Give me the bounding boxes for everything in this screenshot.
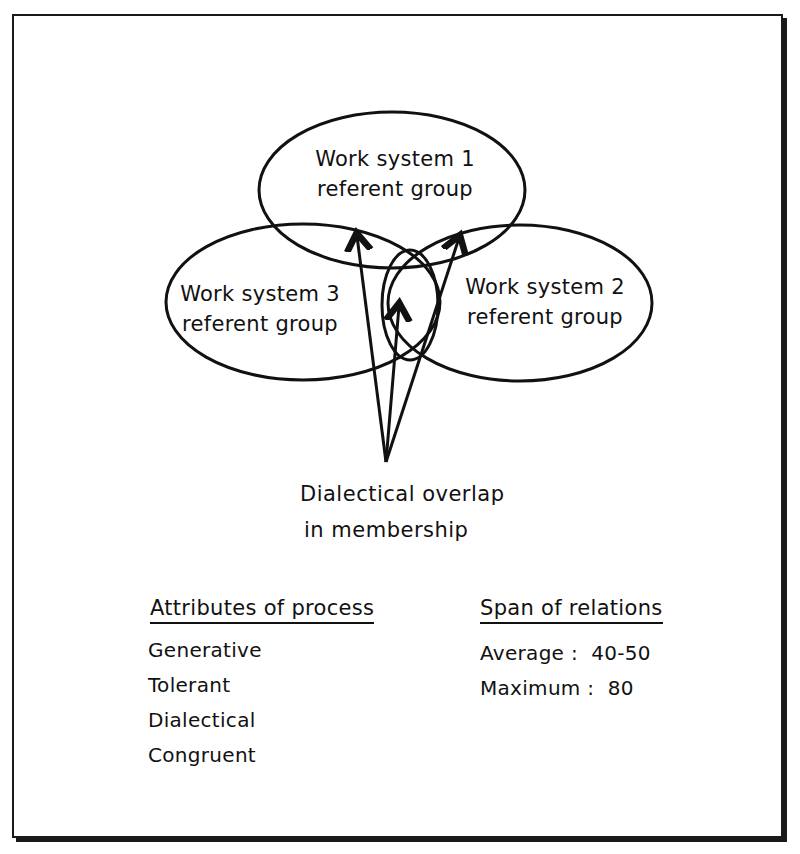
overlap-caption-line2: in membership (300, 512, 505, 548)
node-ws1-title: Work system 1 (290, 144, 500, 174)
attributes-title: Attributes of process (150, 596, 374, 624)
node-ws1-subtitle: referent group (290, 174, 500, 204)
arrow-to-ws1-ws2 (386, 238, 459, 462)
attribute-item: Tolerant (148, 668, 262, 703)
span-title: Span of relations (480, 596, 663, 624)
attributes-list: Generative Tolerant Dialectical Congruen… (148, 633, 262, 773)
node-ws3: Work system 3 referent group (170, 279, 350, 339)
attribute-item: Generative (148, 633, 262, 668)
node-ws2-title: Work system 2 (450, 272, 640, 302)
attribute-item: Congruent (148, 738, 262, 773)
overlap-caption: Dialectical overlap in membership (300, 476, 505, 548)
arrow-to-ws1-ws3 (357, 236, 386, 462)
node-ws2: Work system 2 referent group (450, 272, 640, 332)
overlap-caption-line1: Dialectical overlap (300, 476, 505, 512)
span-list: Average : 40-50 Maximum : 80 (480, 636, 651, 706)
venn-diagram (0, 0, 800, 854)
node-ws1: Work system 1 referent group (290, 144, 500, 204)
attribute-item: Dialectical (148, 703, 262, 738)
node-ws2-subtitle: referent group (450, 302, 640, 332)
node-ws3-title: Work system 3 (170, 279, 350, 309)
span-item: Average : 40-50 (480, 636, 651, 671)
node-ws3-subtitle: referent group (170, 309, 350, 339)
span-item: Maximum : 80 (480, 671, 651, 706)
